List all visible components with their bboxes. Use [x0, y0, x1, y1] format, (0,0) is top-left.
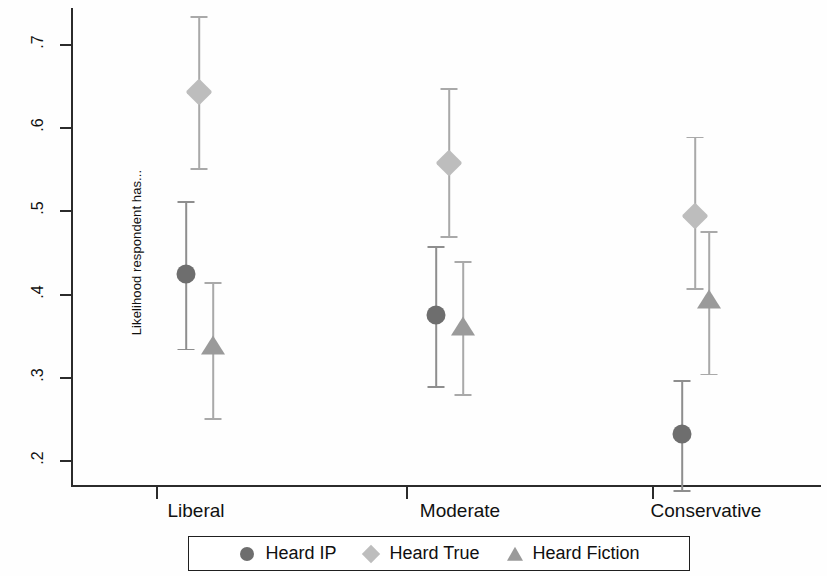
y-axis-tick-label: .4: [29, 272, 47, 312]
data-point-triangle-liberal[interactable]: [201, 336, 225, 355]
x-axis-line: [71, 485, 821, 487]
error-bar-cap-lower: [428, 386, 445, 388]
legend-label-heard-true: Heard True: [389, 543, 479, 564]
y-axis-tick: [60, 294, 71, 296]
y-axis-tick: [60, 127, 71, 129]
data-point-circle-liberal[interactable]: [177, 264, 196, 283]
data-point-triangle-conservative[interactable]: [697, 290, 721, 309]
triangle-marker-icon: [506, 545, 524, 563]
error-bar-cap-lower: [701, 374, 718, 376]
data-point-diamond-conservative[interactable]: [682, 202, 709, 229]
error-bar-cap-upper: [701, 231, 718, 233]
legend-label-heard-ip: Heard IP: [265, 543, 336, 564]
circle-marker-icon: [238, 545, 256, 563]
error-bar-cap-upper: [674, 380, 691, 382]
x-axis-label-liberal: Liberal: [167, 500, 224, 522]
error-bar-cap-lower: [455, 394, 472, 396]
y-axis-tick: [60, 210, 71, 212]
data-point-circle-conservative[interactable]: [673, 425, 692, 444]
error-bar-cap-upper: [455, 261, 472, 263]
y-axis-tick: [60, 44, 71, 46]
x-axis-tick: [156, 487, 158, 499]
error-bar-cap-lower: [674, 490, 691, 492]
y-axis-line: [71, 8, 73, 487]
error-bar-cap-upper: [441, 88, 458, 90]
data-point-diamond-moderate[interactable]: [436, 150, 463, 177]
x-axis-label-conservative: Conservative: [651, 500, 762, 522]
error-bar-cap-upper: [178, 201, 195, 203]
error-bar-cap-lower: [205, 418, 222, 420]
y-axis-tick: [60, 460, 71, 462]
x-axis-tick: [406, 487, 408, 499]
y-axis-tick-label: .6: [29, 105, 47, 145]
x-axis-tick: [652, 487, 654, 499]
y-axis-tick-label: .2: [29, 438, 47, 478]
legend-item-heard-true[interactable]: Heard True: [362, 543, 479, 564]
y-axis-tick-label: .7: [29, 22, 47, 62]
y-axis-title: Likelihood respondent has...: [129, 43, 144, 463]
error-bar-cap-upper: [205, 282, 222, 284]
x-axis-label-moderate: Moderate: [420, 500, 500, 522]
legend-label-heard-fiction: Heard Fiction: [533, 543, 640, 564]
diamond-marker-icon: [362, 545, 380, 563]
error-bar-cap-lower: [191, 168, 208, 170]
y-axis-tick-label: .3: [29, 355, 47, 395]
y-axis-tick: [60, 377, 71, 379]
legend-item-heard-ip[interactable]: Heard IP: [238, 543, 336, 564]
error-bar-cap-upper: [428, 246, 445, 248]
error-bar-cap-lower: [178, 349, 195, 351]
data-point-triangle-moderate[interactable]: [451, 317, 475, 336]
data-point-circle-moderate[interactable]: [427, 306, 446, 325]
legend-item-heard-fiction[interactable]: Heard Fiction: [506, 543, 640, 564]
error-bar-cap-upper: [191, 16, 208, 18]
data-point-diamond-liberal[interactable]: [186, 79, 213, 106]
figure-canvas: Likelihood respondent has... .2.3.4.5.6.…: [0, 0, 827, 576]
error-bar-cap-upper: [687, 137, 704, 139]
chart-legend: Heard IP Heard True Heard Fiction: [188, 536, 690, 571]
y-axis-tick-label: .5: [29, 188, 47, 228]
error-bar-cap-lower: [441, 236, 458, 238]
